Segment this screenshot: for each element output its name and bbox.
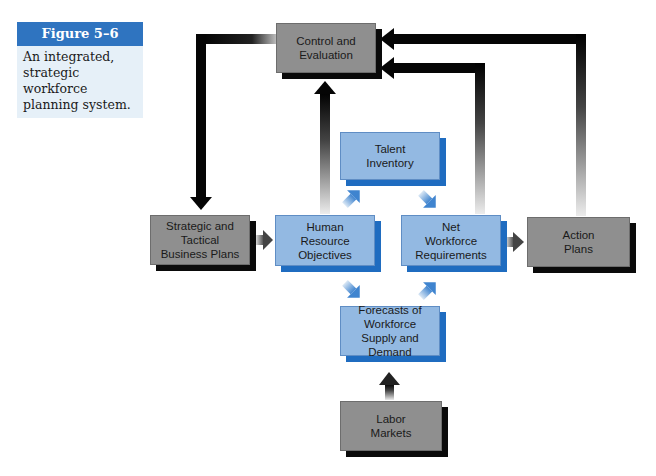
node-talent-inventory: TalentInventory [340, 132, 440, 180]
arrow-labor-to-forecasts [379, 372, 400, 400]
node-text: Tactical [161, 233, 240, 247]
arrow-forecasts-to-net [415, 276, 443, 304]
node-hr-objectives: HumanResourceObjectives [275, 215, 375, 266]
node-text: Workforce [341, 317, 439, 331]
arrow-hr-to-control [314, 81, 336, 214]
node-text: Talent [366, 142, 413, 156]
node-text: Inventory [366, 156, 413, 170]
node-text: Action [563, 228, 595, 242]
node-action-plans: ActionPlans [527, 217, 630, 267]
node-labor-markets: LaborMarkets [340, 401, 442, 451]
node-text: Markets [371, 426, 412, 440]
node-text: Business Plans [161, 247, 240, 261]
node-text: Labor [371, 412, 412, 426]
node-text: Workforce [415, 234, 487, 248]
node-text: Control and [296, 34, 355, 48]
node-text: Supply and Demand [341, 331, 439, 359]
node-text: Evaluation [296, 48, 355, 62]
node-control-evaluation: Control andEvaluation [276, 23, 376, 73]
node-text: Resource [298, 234, 352, 248]
node-strategic-business-plans: Strategic andTacticalBusiness Plans [150, 215, 250, 265]
node-text: Strategic and [161, 219, 240, 233]
arrow-talent-to-net [415, 187, 443, 215]
arrow-hr-to-forecasts [339, 277, 367, 305]
node-text: Objectives [298, 248, 352, 262]
node-text: Human [298, 220, 352, 234]
arrow-hr-to-talent [339, 184, 367, 212]
node-net-workforce-requirements: NetWorkforceRequirements [401, 215, 501, 266]
arrow-control-to-strategic [190, 34, 276, 210]
node-text: Forecasts of [341, 303, 439, 317]
node-text: Requirements [415, 248, 487, 262]
arrow-strategic-to-hr [256, 230, 273, 250]
arrow-net-to-action [506, 232, 524, 252]
node-text: Plans [563, 242, 595, 256]
node-text: Net [415, 220, 487, 234]
node-forecasts-supply-demand: Forecasts ofWorkforceSupply and Demand [340, 306, 440, 356]
